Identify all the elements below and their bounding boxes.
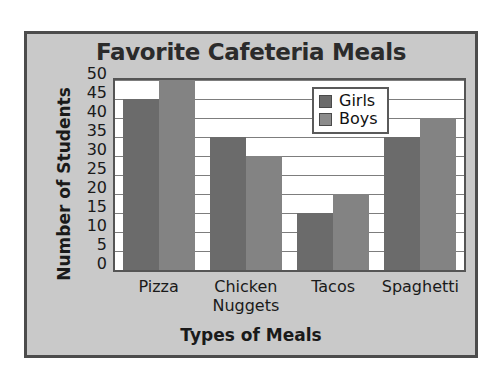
legend-swatch-icon (319, 95, 332, 108)
y-tick-label: 40 (63, 104, 107, 120)
x-axis-title: Types of Meals (27, 325, 475, 345)
x-tick-label-line: Spaghetti (377, 277, 464, 296)
bar-boys-chicken-nuggets (246, 156, 282, 270)
bar-boys-spaghetti (420, 118, 456, 270)
bar-girls-chicken-nuggets (210, 137, 246, 270)
x-tick-label-tacos: Tacos (290, 277, 377, 296)
bar-girls-spaghetti (384, 137, 420, 270)
plot-area: GirlsBoys (113, 78, 466, 272)
x-tick-label-chicken-nuggets: ChickenNuggets (202, 277, 289, 315)
y-axis-tick-labels: 50454035302520151050 (63, 70, 107, 272)
y-tick-label: 45 (63, 85, 107, 101)
chart-title: Favorite Cafeteria Meals (27, 39, 475, 65)
bar-boys-tacos (333, 194, 369, 270)
y-tick-label: 15 (63, 199, 107, 215)
legend-item-girls[interactable]: Girls (319, 92, 378, 110)
x-tick-label-line: Tacos (290, 277, 377, 296)
legend-swatch-icon (319, 113, 332, 126)
y-tick-label: 35 (63, 123, 107, 139)
x-tick-label-line: Pizza (115, 277, 202, 296)
y-tick-label: 10 (63, 218, 107, 234)
y-tick-label: 5 (63, 237, 107, 253)
bar-girls-pizza (123, 99, 159, 270)
y-tick-label: 30 (63, 142, 107, 158)
bars-layer (115, 80, 464, 270)
x-tick-label-line: Chicken (202, 277, 289, 296)
legend-item-boys[interactable]: Boys (319, 110, 378, 128)
x-axis-tick-labels: PizzaChickenNuggetsTacosSpaghetti (113, 277, 466, 323)
x-tick-label-pizza: Pizza (115, 277, 202, 296)
x-tick-label-line: Nuggets (202, 296, 289, 315)
legend-label: Girls (339, 93, 375, 109)
chart-legend: GirlsBoys (312, 87, 389, 134)
bar-girls-tacos (297, 213, 333, 270)
y-tick-label: 0 (63, 256, 107, 272)
legend-label: Boys (339, 111, 378, 127)
chart-panel: Favorite Cafeteria Meals Number of Stude… (24, 31, 478, 358)
y-tick-label: 20 (63, 180, 107, 196)
bar-boys-pizza (159, 80, 195, 270)
y-tick-label: 25 (63, 161, 107, 177)
x-tick-label-spaghetti: Spaghetti (377, 277, 464, 296)
y-tick-label: 50 (63, 66, 107, 82)
